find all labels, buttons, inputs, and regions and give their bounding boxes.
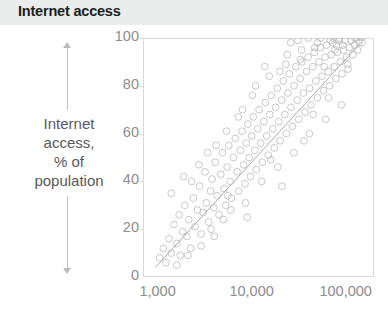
scatter-plot-canvas: [143, 38, 374, 277]
scatter-point: [251, 147, 258, 154]
scatter-point: [259, 159, 266, 166]
scatter-point: [173, 262, 180, 269]
y-axis-tick-label: 40: [99, 171, 139, 187]
scatter-point: [294, 97, 301, 104]
scatter-point: [312, 78, 319, 85]
scatter-point: [274, 164, 281, 171]
scatter-point: [160, 245, 167, 252]
x-axis-tick-label: 1,000: [139, 283, 175, 299]
scatter-point: [239, 106, 246, 113]
scatter-point: [240, 161, 247, 168]
scatter-point: [209, 176, 216, 183]
scatter-point: [305, 38, 312, 41]
scatter-point: [253, 166, 260, 173]
scatter-point: [339, 70, 346, 77]
scatter-point: [257, 140, 264, 147]
scatter-point: [281, 111, 288, 118]
scatter-point: [301, 137, 308, 144]
scatter-point: [196, 161, 203, 168]
scatter-point: [171, 221, 178, 228]
scatter-point: [344, 61, 351, 68]
scatter-point: [242, 200, 249, 207]
scatter-point: [207, 188, 214, 195]
scatter-point: [308, 102, 315, 109]
scatter-point: [266, 73, 273, 80]
scatter-point: [211, 233, 218, 240]
scatter-point: [203, 200, 210, 207]
scatter-point: [320, 87, 327, 94]
scatter-point: [306, 85, 313, 92]
scatter-point: [185, 252, 192, 259]
scatter-point: [277, 137, 284, 144]
scatter-point: [302, 109, 309, 116]
y-axis-tick-label: 80: [99, 76, 139, 92]
y-axis-tick-labels: 020406080100: [95, 38, 139, 277]
scatter-point: [246, 154, 253, 161]
scatter-point: [269, 125, 276, 132]
scatter-point: [252, 82, 259, 89]
scatter-point: [196, 183, 203, 190]
plot-area: [143, 38, 374, 277]
scatter-point: [180, 173, 187, 180]
scatter-point: [230, 154, 237, 161]
scatter-point: [284, 51, 291, 58]
scatter-point: [221, 185, 228, 192]
scatter-point: [277, 68, 284, 75]
scatter-point: [278, 97, 285, 104]
scatter-point: [242, 180, 249, 187]
title-banner: Internet access: [0, 0, 388, 25]
scatter-point: [263, 133, 270, 140]
scatter-point: [297, 56, 304, 63]
scatter-point: [309, 63, 316, 70]
scatter-point: [306, 130, 313, 137]
scatter-point: [217, 171, 224, 178]
scatter-point: [291, 82, 298, 89]
scatter-point: [275, 118, 282, 125]
scatter-point: [232, 135, 239, 142]
scatter-point: [220, 216, 227, 223]
scatter-point: [225, 142, 232, 149]
scatter-point: [163, 259, 170, 266]
scatter-point: [254, 125, 261, 132]
scatter-point: [156, 255, 163, 262]
scatter-point: [290, 149, 297, 156]
scatter-point: [188, 178, 195, 185]
scatter-point: [300, 90, 307, 97]
scatter-point: [168, 190, 175, 197]
scatter-point: [223, 128, 230, 135]
scatter-point: [305, 54, 312, 61]
scatter-point: [272, 104, 279, 111]
scatter-point: [249, 92, 256, 99]
scatter-point: [298, 47, 305, 54]
arrow-shaft-top: [67, 48, 68, 110]
scatter-point: [227, 178, 234, 185]
scatter-point: [205, 219, 212, 226]
scatter-point: [295, 116, 302, 123]
scatter-point: [310, 111, 317, 118]
scatter-point: [274, 85, 281, 92]
scatter-point: [208, 226, 215, 233]
y-axis-tick-label: 60: [99, 124, 139, 140]
scatter-point: [271, 145, 278, 152]
scatter-point: [287, 39, 294, 46]
scatter-point: [343, 54, 350, 61]
scatter-point: [280, 78, 287, 85]
scatter-point: [322, 116, 329, 123]
scatter-point: [282, 61, 289, 68]
scatter-point: [213, 142, 220, 149]
scatter-point: [235, 114, 242, 121]
arrow-shaft-bottom: [67, 196, 68, 268]
scatter-point: [190, 195, 197, 202]
scatter-point: [244, 121, 251, 128]
scatter-point: [248, 133, 255, 140]
x-axis-tick-label: 100,000: [319, 283, 371, 299]
scatter-point: [256, 106, 263, 113]
scatter-point: [294, 38, 301, 44]
scatter-point: [262, 99, 269, 106]
scatter-point: [198, 243, 205, 250]
x-axis-tick-labels: 1,00010,000100,000: [110, 283, 388, 305]
scatter-point: [288, 104, 295, 111]
page-title: Internet access: [18, 3, 121, 19]
scatter-point: [198, 231, 205, 238]
scatter-point: [234, 168, 241, 175]
